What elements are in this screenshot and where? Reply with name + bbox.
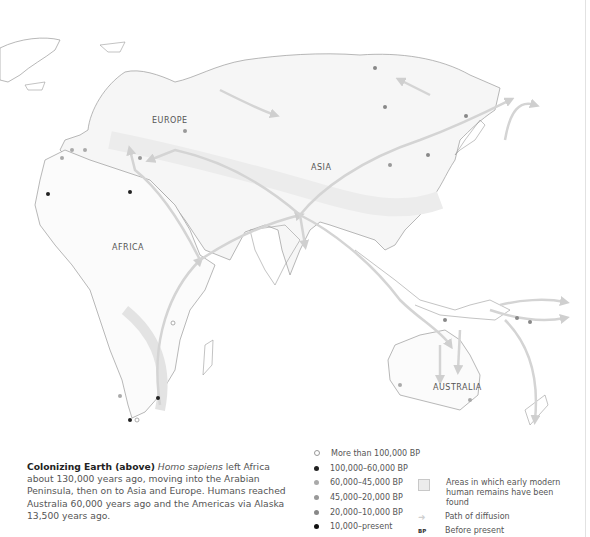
gray-dot-icon bbox=[314, 495, 319, 500]
legend-symbols: Areas in which early modern human remain… bbox=[418, 478, 576, 537]
bp-abbrev: BP bbox=[418, 526, 430, 536]
legend-item: BP Before present bbox=[418, 526, 576, 536]
gray-dot-icon bbox=[314, 510, 319, 515]
legend-item: 100,000–60,000 BP bbox=[314, 461, 420, 476]
legend-item: 10,000–present bbox=[314, 519, 420, 534]
world-map: EUROPE ASIA AFRICA AUSTRALIA bbox=[0, 0, 585, 440]
open-dot-icon bbox=[314, 450, 320, 456]
legend-item: 20,000–10,000 BP bbox=[314, 505, 420, 520]
arrow-right-icon: ➜ bbox=[418, 512, 430, 522]
label-asia: ASIA bbox=[311, 163, 331, 172]
legend-item: 45,000–20,000 BP bbox=[314, 490, 420, 505]
map-graphic bbox=[0, 0, 585, 440]
legend-item: ➜ Path of diffusion bbox=[418, 512, 576, 522]
label-australia: AUSTRALIA bbox=[433, 383, 482, 392]
area-swatch-icon bbox=[418, 479, 430, 491]
black-dot-icon bbox=[314, 466, 319, 471]
page-divider bbox=[585, 0, 586, 537]
legend-dates: More than 100,000 BP 100,000–60,000 BP 6… bbox=[314, 446, 420, 534]
legend-item: 60,000–45,000 BP bbox=[314, 475, 420, 490]
label-europe: EUROPE bbox=[152, 116, 188, 125]
gray-dot-icon bbox=[314, 480, 319, 485]
label-africa: AFRICA bbox=[112, 243, 144, 252]
legend-item: More than 100,000 BP bbox=[314, 446, 420, 461]
map-caption: Colonizing Earth (above) Homo sapiens le… bbox=[27, 461, 297, 522]
caption-species: Homo sapiens bbox=[158, 461, 223, 472]
caption-title: Colonizing Earth (above) bbox=[27, 461, 155, 472]
black-dot-icon bbox=[314, 524, 319, 529]
legend-item: Areas in which early modern human remain… bbox=[418, 478, 576, 508]
